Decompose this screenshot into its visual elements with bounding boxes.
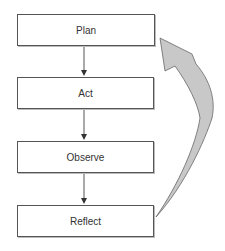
arrow-act-to-observe bbox=[81, 109, 87, 140]
diagram-canvas: Plan Act Observe Reflect bbox=[0, 0, 225, 251]
step-act-label: Act bbox=[78, 88, 92, 99]
step-observe-box: Observe bbox=[17, 141, 154, 173]
arrow-observe-to-reflect bbox=[81, 173, 87, 204]
return-arrow-reflect-to-plan bbox=[156, 38, 213, 217]
step-reflect-box: Reflect bbox=[17, 205, 154, 237]
step-plan-box: Plan bbox=[17, 14, 155, 46]
arrow-plan-to-act bbox=[81, 46, 87, 76]
step-reflect-label: Reflect bbox=[70, 216, 101, 227]
step-act-box: Act bbox=[17, 77, 154, 109]
step-observe-label: Observe bbox=[67, 152, 105, 163]
step-plan-label: Plan bbox=[76, 25, 96, 36]
